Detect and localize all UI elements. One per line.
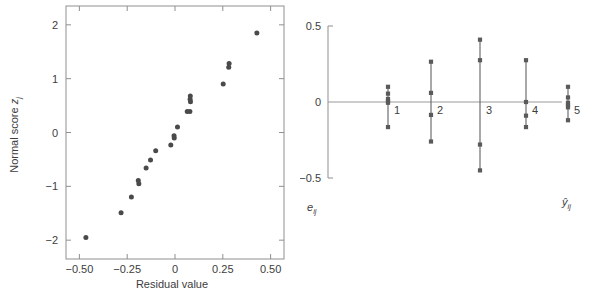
scatter-point	[188, 93, 193, 98]
y-tick-label: −2	[45, 234, 58, 246]
residual-point	[478, 168, 482, 172]
residual-point	[478, 58, 482, 62]
residual-point	[478, 38, 482, 42]
y-axis-title: Normal score zj	[8, 97, 23, 173]
residual-point	[386, 85, 390, 89]
scatter-point	[144, 166, 149, 171]
residual-point	[566, 105, 570, 109]
scatter-point	[168, 142, 173, 147]
scatter-point	[83, 235, 88, 240]
residual-point	[566, 85, 570, 89]
scatter-point	[119, 210, 124, 215]
y-tick-label: 0.5	[306, 20, 321, 32]
normal-probability-plot-svg: −0.50−0.2500.250.50 −2−1012 Residual val…	[0, 0, 300, 299]
scatter-point	[172, 135, 177, 140]
y-axis-title-subscript: ij	[313, 207, 317, 216]
plot-border	[66, 6, 284, 259]
scatter-point	[187, 109, 192, 114]
x-axis-title: ŷij	[561, 196, 571, 211]
residual-point	[524, 100, 528, 104]
figure-container: −0.50−0.2500.250.50 −2−1012 Residual val…	[0, 0, 600, 299]
residual-points	[386, 38, 570, 173]
y-axis-title-subscript: j	[14, 97, 23, 100]
y-axis-title-main: Normal score	[8, 104, 20, 172]
scatter-point	[129, 195, 134, 200]
residual-point	[524, 58, 528, 62]
y-tick-label: −1	[45, 180, 58, 192]
scatter-point	[175, 125, 180, 130]
x-axis-title-subscript: ij	[568, 202, 572, 211]
y-tick-label: 2	[52, 19, 58, 31]
residual-point	[429, 60, 433, 64]
group-label: 1	[394, 104, 400, 116]
residuals-vs-fitted-panel: 0.50−0.5 12345 ŷij eij	[300, 0, 600, 299]
scatter-point	[227, 61, 232, 66]
group-label: 2	[437, 104, 443, 116]
x-tick-label: 0	[172, 263, 178, 275]
residual-point	[386, 92, 390, 96]
x-tick-label: 0.50	[260, 263, 281, 275]
residual-point	[566, 95, 570, 99]
x-tick-label: −0.25	[113, 263, 141, 275]
scatter-point	[254, 30, 259, 35]
residual-point	[429, 113, 433, 117]
axis-ticks	[66, 6, 284, 259]
scatter-point	[153, 148, 158, 153]
x-axis-tick-labels: −0.50−0.2500.250.50	[65, 263, 281, 275]
scatter-point	[221, 82, 226, 87]
scatter-point	[136, 181, 141, 186]
residual-point	[566, 118, 570, 122]
scatter-point	[188, 99, 193, 104]
residual-point	[386, 101, 390, 105]
residual-point	[524, 125, 528, 129]
x-tick-label: 0.25	[212, 263, 233, 275]
group-label: 3	[486, 104, 492, 116]
residuals-vs-fitted-svg: 0.50−0.5 12345 ŷij eij	[300, 0, 600, 299]
x-tick-label: −0.50	[65, 263, 93, 275]
y-axis-tick-labels: 0.50−0.5	[300, 20, 321, 184]
residual-point	[478, 142, 482, 146]
group-label: 5	[574, 104, 580, 116]
y-axis-tick-labels: −2−1012	[45, 19, 58, 246]
y-tick-label: 0	[315, 96, 321, 108]
x-axis-title: Residual value	[136, 278, 208, 290]
scatter-point	[148, 157, 153, 162]
y-tick-label: 0	[52, 127, 58, 139]
residual-point	[429, 91, 433, 95]
group-label: 4	[532, 104, 538, 116]
group-labels: 12345	[394, 104, 580, 116]
y-tick-label: −0.5	[300, 172, 321, 184]
y-axis-title: eij	[307, 201, 317, 216]
residual-point	[386, 125, 390, 129]
normal-probability-plot-panel: −0.50−0.2500.250.50 −2−1012 Residual val…	[0, 0, 300, 299]
residual-point	[524, 114, 528, 118]
y-tick-label: 1	[52, 73, 58, 85]
residual-point	[429, 139, 433, 143]
plot-frame	[66, 6, 284, 259]
scatter-points	[83, 30, 259, 240]
